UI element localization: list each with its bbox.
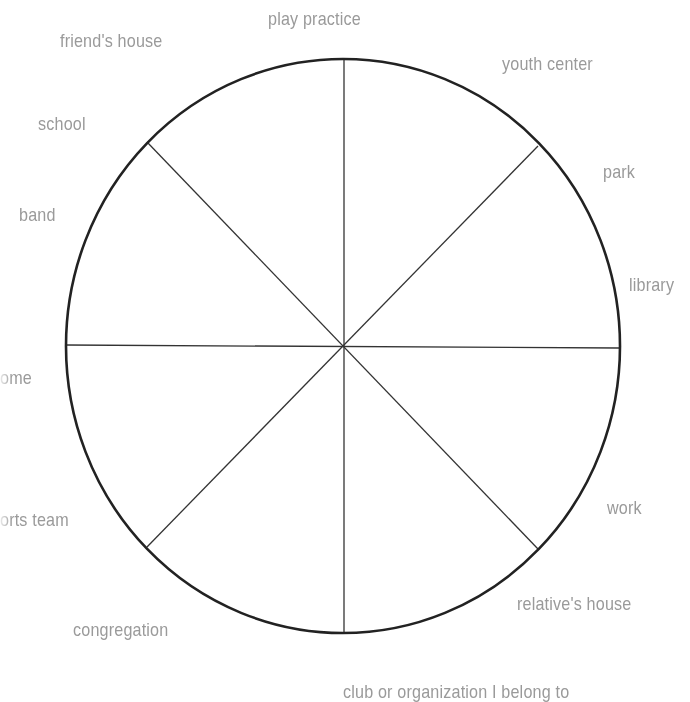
label-band: band [19, 205, 56, 224]
label-work: work [607, 498, 642, 517]
label-congregation: congregation [73, 620, 168, 639]
label-youth-center: youth center [502, 54, 593, 73]
label-play-practice: play practice [268, 9, 361, 28]
label-sports-team: orts team [0, 510, 69, 529]
spoke-diagonal-up [147, 146, 538, 547]
label-school: school [38, 114, 86, 133]
label-park: park [603, 162, 635, 181]
label-friends-house: friend's house [60, 31, 162, 50]
label-club-or-organization: club or organization I belong to [343, 682, 569, 701]
wheel-spokes [66, 60, 619, 633]
label-home: ome [0, 368, 32, 387]
label-relatives-house: relative's house [517, 594, 631, 613]
label-library: library [629, 275, 674, 294]
